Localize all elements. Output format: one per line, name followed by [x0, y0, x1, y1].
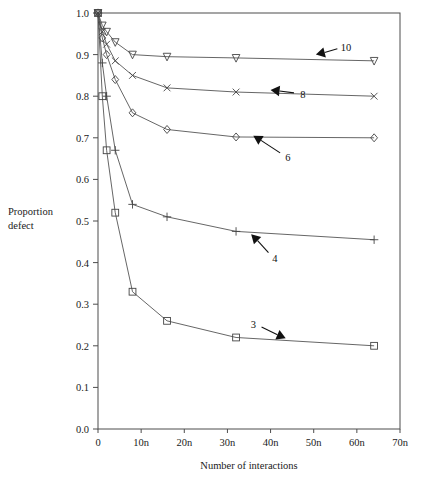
y-axis-ticks: 0.00.10.20.30.40.50.60.70.80.91.0	[76, 8, 98, 435]
y-tick-label: 0.2	[76, 341, 89, 352]
annotation-arrow-line-4	[258, 241, 269, 253]
annotation-arrow-head-8	[271, 86, 281, 96]
y-tick-label: 0.3	[76, 299, 89, 310]
annotation-8: 8	[271, 86, 306, 100]
series-markers-3	[95, 10, 378, 350]
x-tick-label: 0	[95, 437, 100, 448]
marker-plus	[111, 146, 119, 154]
annotation-arrow-head-10	[316, 47, 326, 57]
marker-plus	[163, 213, 171, 221]
marker-cross-x	[129, 72, 136, 79]
annotation-10: 10	[316, 42, 351, 57]
x-tick-label: 70n	[392, 437, 409, 448]
chart-figure: 010n20n30n40n50n60n70n 0.00.10.20.30.40.…	[0, 0, 432, 488]
marker-triangle-down	[370, 57, 378, 65]
annotation-arrow-line-3	[262, 327, 278, 335]
plot-frame	[98, 13, 400, 429]
marker-plus	[370, 236, 378, 244]
proportion-defect-line-chart: 010n20n30n40n50n60n70n 0.00.10.20.30.40.…	[0, 0, 432, 488]
plot-area-border	[98, 13, 400, 429]
marker-plus	[98, 59, 106, 67]
annotation-label-8: 8	[300, 89, 305, 100]
annotation-label-6: 6	[285, 152, 290, 163]
x-tick-label: 60n	[349, 437, 366, 448]
annotation-label-4: 4	[272, 253, 278, 264]
x-tick-label: 30n	[220, 437, 237, 448]
y-axis-title-line-1: Proportion	[8, 206, 54, 217]
series-line-10	[98, 13, 374, 61]
annotation-arrow-line-10	[325, 49, 338, 53]
series-markers-10	[94, 10, 378, 65]
annotation-arrow-line-8	[280, 91, 294, 93]
x-axis-title: Number of interactions	[200, 460, 297, 471]
series-markers-4	[94, 9, 379, 244]
y-tick-label: 0.4	[76, 258, 90, 269]
x-tick-label: 20n	[176, 437, 193, 448]
marker-plus	[102, 92, 110, 100]
series-line-4	[98, 13, 374, 240]
series-annotations-group: 108643	[251, 42, 352, 339]
x-tick-label: 10n	[133, 437, 150, 448]
y-tick-label: 1.0	[76, 8, 89, 19]
annotation-label-10: 10	[341, 42, 352, 53]
y-axis-title-line-2: defect	[8, 220, 34, 231]
y-tick-label: 0.6	[76, 174, 89, 185]
annotation-6: 6	[253, 136, 290, 163]
x-axis-ticks: 010n20n30n40n50n60n70n	[95, 429, 408, 448]
marker-plus	[232, 227, 240, 235]
marker-cross-x	[112, 57, 119, 64]
annotation-arrow-head-6	[253, 136, 263, 145]
annotation-arrow-line-6	[261, 140, 280, 153]
y-tick-label: 0.7	[76, 133, 89, 144]
y-tick-label: 0.0	[76, 424, 89, 435]
x-tick-label: 40n	[263, 437, 280, 448]
annotation-3: 3	[251, 319, 286, 339]
marker-plus	[128, 200, 136, 208]
series-line-6	[98, 13, 374, 138]
y-tick-label: 0.8	[76, 91, 89, 102]
annotation-4: 4	[251, 234, 278, 263]
annotation-label-3: 3	[251, 319, 256, 330]
y-tick-label: 0.9	[76, 50, 89, 61]
y-tick-label: 0.5	[76, 216, 89, 227]
x-tick-label: 50n	[306, 437, 323, 448]
series-markers-6	[95, 9, 378, 142]
y-tick-label: 0.1	[76, 382, 89, 393]
